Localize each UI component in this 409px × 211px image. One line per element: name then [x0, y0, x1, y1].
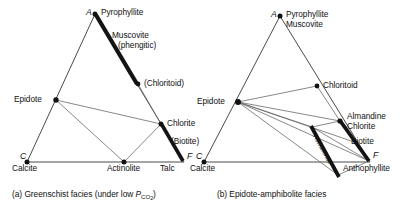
label-epidote-a: Epidote — [14, 95, 42, 105]
caption-a-sub: CO — [141, 193, 150, 200]
tie-almandine-hornblende-b — [312, 121, 340, 127]
panel-a-tie-lines — [56, 84, 161, 162]
tie-epidote-hornblende-lower-b — [238, 102, 338, 175]
vertex-label-c-panel-a: C — [20, 152, 26, 162]
label-calcite-a: Calcite — [12, 164, 37, 174]
node-epidote-b — [235, 99, 241, 105]
node-epidote-a — [53, 97, 58, 102]
tie-epidote-actinolite — [56, 100, 124, 162]
label-muscovite-b: Muscovite — [286, 20, 323, 30]
node-chloritoid-b — [315, 84, 320, 89]
label-chlorite-b: Chlorite — [347, 122, 375, 132]
caption-a-text: Greenschist facies (under low — [24, 189, 135, 199]
tie-epidote-chlorite — [56, 100, 161, 124]
label-actinolite-a: Actinolite — [107, 164, 140, 174]
panel-b-graphics — [202, 14, 371, 178]
caption-panel-a: (a) Greenschist facies (under low PCO2) — [12, 190, 156, 203]
label-talc-a: Talc — [160, 164, 175, 174]
label-calcite-b: Calcite — [190, 164, 215, 174]
acf-diagram-figure: A Pyrophyllite Muscovite (phengitic) (Ch… — [0, 0, 409, 211]
tie-epidote-almandine-b — [238, 102, 340, 121]
label-phengitic-a: (phengitic) — [118, 41, 156, 51]
label-biotite-b: Biotite — [351, 137, 374, 147]
label-chloritoid-b: Chloritoid — [323, 81, 358, 91]
tie-epidote-chloritoid-b — [238, 86, 317, 102]
node-almandine-chlorite-b — [337, 118, 342, 123]
tie-chloritoid-chlorite — [138, 84, 161, 124]
vertex-label-c-panel-b: C — [196, 152, 202, 162]
caption-panel-b: (b) Epidote-amphibolite facies — [217, 190, 326, 200]
node-chloritoid-a — [136, 82, 141, 87]
vertex-label-f-panel-a: F — [187, 152, 192, 162]
caption-a-prefix: (a) — [12, 189, 22, 199]
vertex-label-f-panel-b: F — [373, 151, 378, 161]
label-anthophyllite-b: Anthophyllite — [343, 164, 390, 174]
node-pyrophyllite-a — [93, 12, 98, 17]
vertex-label-a-panel-b: A — [271, 10, 277, 20]
caption-a-tail: ) — [153, 189, 156, 199]
tie-chloritoid-almandine-b — [317, 86, 340, 121]
label-biotite-a: (Biotite) — [171, 137, 199, 147]
label-chloritoid-a: (Chloritoid) — [144, 79, 184, 89]
tie-epidote-hornblende-upper-b — [238, 102, 312, 127]
node-chlorite-a — [159, 122, 164, 127]
tie-chlorite-actinolite — [124, 124, 161, 162]
label-chlorite-a: Chlorite — [167, 119, 195, 129]
node-pyrophyllite-b — [278, 14, 283, 19]
vertex-label-a-panel-a: A — [86, 8, 92, 18]
label-pyrophyllite-a: Pyrophyllite — [101, 8, 143, 18]
label-epidote-b: Epidote — [197, 97, 225, 107]
